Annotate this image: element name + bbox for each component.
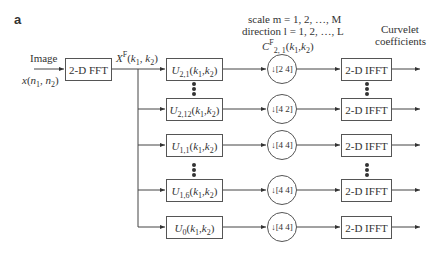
filter-box-u16: U1,6(k1,k2) [166, 179, 223, 202]
filter-box-u11: U1,1(k1,k2) [166, 134, 223, 157]
direction-label: direction l = 1, 2, …, L [242, 25, 344, 37]
output-label-1: Curvelet [381, 23, 419, 35]
scale-label: scale m = 1, 2, …, M [248, 13, 341, 25]
ellipsis-dots [365, 82, 369, 97]
ifft-box: 2-D IFFT [341, 58, 392, 81]
output-label-2: coefficients [375, 35, 426, 47]
downsample-circle: ↓[4 4] [267, 130, 297, 160]
ellipsis-dots [192, 163, 196, 178]
fft-box: 2-D FFT [65, 58, 112, 81]
ifft-box: 2-D IFFT [341, 98, 392, 121]
ifft-box: 2-D IFFT [341, 134, 392, 157]
ellipsis-dots [192, 82, 196, 97]
filter-box-u21: U2,1(k1,k2) [166, 58, 223, 81]
filter-box-u0: U0(k1,k2) [166, 216, 223, 239]
downsample-circle: ↓[2 4] [267, 54, 297, 84]
ellipsis-dots [365, 163, 369, 178]
coefficient-label: CF2, 1(k1,k2) [262, 40, 314, 52]
ifft-box: 2-D IFFT [341, 179, 392, 202]
image-signal-label: x(n1, n2) [22, 74, 59, 86]
fft-output-label: XF(k1, k2) [116, 52, 158, 64]
downsample-circle: ↓[4 4] [267, 175, 297, 205]
ifft-box: 2-D IFFT [341, 216, 392, 239]
filter-box-u212: U2,12(k1,k2) [166, 98, 223, 121]
curvelet-diagram: a [0, 0, 447, 255]
downsample-circle: ↓[4 2] [267, 94, 297, 124]
downsample-circle: ↓[4 4] [267, 212, 297, 242]
image-label: Image [30, 52, 57, 64]
